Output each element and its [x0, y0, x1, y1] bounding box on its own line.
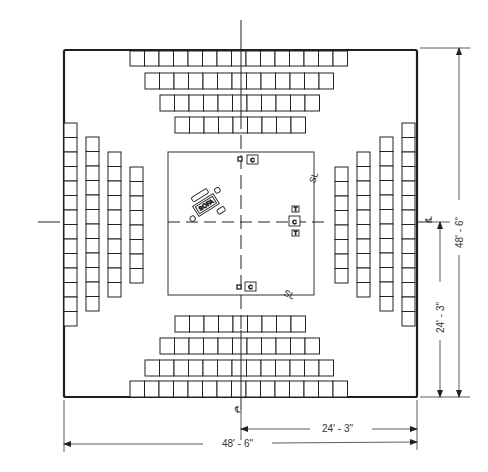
- seat: [380, 282, 393, 297]
- seat: [174, 360, 189, 376]
- seat: [247, 95, 262, 111]
- seat: [130, 240, 143, 255]
- seat: [174, 51, 189, 66]
- seat: [64, 138, 77, 153]
- chair-right: C: [289, 216, 300, 226]
- stage-furniture: SOFA C C C T T: [181, 155, 300, 291]
- stage-marks: SL SL: [282, 171, 320, 302]
- seat: [160, 360, 175, 376]
- seat: [291, 95, 306, 111]
- seat: [108, 167, 121, 182]
- seat: [305, 360, 320, 376]
- seat: [218, 95, 233, 111]
- seat: [335, 211, 348, 226]
- seat: [203, 381, 218, 397]
- seat: [357, 167, 370, 182]
- seat: [262, 95, 277, 111]
- seat: [357, 196, 370, 211]
- seat: [64, 254, 77, 269]
- seat: [64, 123, 77, 138]
- seat: [261, 360, 276, 376]
- right-column-0: [335, 167, 348, 283]
- seat: [304, 381, 319, 397]
- seat: [291, 338, 306, 354]
- seat: [248, 316, 263, 332]
- side-chair-right: [214, 187, 221, 194]
- seat: [204, 95, 219, 111]
- seat: [86, 297, 99, 312]
- right-column-1: [357, 152, 370, 297]
- seat: [275, 51, 290, 66]
- seat: [64, 210, 77, 225]
- seat: [145, 51, 160, 66]
- seat: [402, 225, 415, 240]
- seat: [402, 123, 415, 138]
- seat: [174, 73, 189, 89]
- centerline-symbol-bottom: ℄: [234, 405, 241, 415]
- seat: [86, 210, 99, 225]
- seat: [380, 210, 393, 225]
- seat: [218, 338, 233, 354]
- seat: [304, 51, 319, 66]
- seat: [262, 338, 277, 354]
- seat: [217, 381, 232, 397]
- seat: [203, 73, 218, 89]
- seat: [64, 225, 77, 240]
- seat: [305, 95, 320, 111]
- seat: [190, 316, 205, 332]
- seat: [290, 51, 305, 66]
- seat: [108, 254, 121, 269]
- chair-label: C: [248, 284, 253, 290]
- seat: [130, 225, 143, 240]
- seat: [277, 316, 292, 332]
- top-row-2: [160, 95, 320, 111]
- seat: [204, 117, 219, 133]
- right-column-2: [380, 137, 393, 311]
- seat: [335, 182, 348, 197]
- seat: [160, 338, 175, 354]
- seat: [291, 117, 306, 133]
- seat: [108, 268, 121, 283]
- seat: [402, 239, 415, 254]
- seat: [108, 239, 121, 254]
- seat: [261, 73, 276, 89]
- seat: [357, 254, 370, 269]
- seat: [276, 73, 291, 89]
- seat: [232, 360, 247, 376]
- seat: [333, 381, 348, 397]
- seat: [335, 225, 348, 240]
- seat: [108, 283, 121, 298]
- seat: [64, 167, 77, 182]
- seat: [64, 152, 77, 167]
- seat: [86, 239, 99, 254]
- seat: [380, 152, 393, 167]
- seat: [64, 312, 77, 327]
- seat: [357, 152, 370, 167]
- seat: [130, 254, 143, 269]
- seat: [145, 381, 160, 397]
- seat: [275, 381, 290, 397]
- table-label: T: [294, 230, 298, 236]
- seat: [175, 117, 190, 133]
- seat: [86, 224, 99, 239]
- seat: [145, 73, 160, 89]
- seat: [130, 182, 143, 197]
- seat: [380, 195, 393, 210]
- left-column-2: [108, 152, 121, 297]
- left-column-1: [86, 137, 99, 311]
- seat: [357, 239, 370, 254]
- seat: [357, 268, 370, 283]
- chair-label: C: [292, 219, 297, 225]
- seat: [204, 338, 219, 354]
- seat: [333, 51, 348, 66]
- seat: [357, 210, 370, 225]
- seat: [402, 196, 415, 211]
- dimension-half-depth: 24' - 3": [435, 302, 446, 333]
- seat: [247, 360, 262, 376]
- seat: [380, 137, 393, 152]
- seat: [130, 211, 143, 226]
- seat: [277, 117, 292, 133]
- seat: [335, 196, 348, 211]
- seat: [64, 239, 77, 254]
- seat: [189, 360, 204, 376]
